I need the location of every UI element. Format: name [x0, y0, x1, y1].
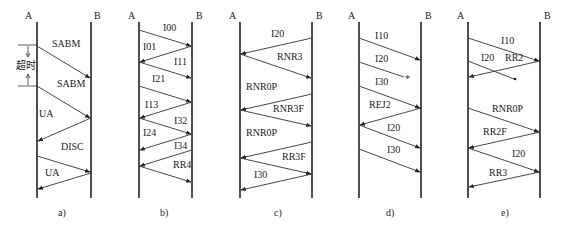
message-label: RR3 [489, 167, 507, 178]
panel-caption: b) [160, 207, 168, 219]
message-label: RNR0P [492, 103, 524, 114]
lost-frame-marker [514, 78, 517, 81]
station-b-label: B [544, 10, 551, 21]
message-label: UA [45, 167, 60, 178]
message-label: I10 [375, 30, 388, 41]
message-label: SABM [52, 38, 80, 49]
timeout-bracket: 超时 [16, 45, 37, 86]
message-label: I00 [163, 22, 176, 33]
station-a-label: A [128, 10, 136, 21]
station-b-label: B [94, 10, 101, 21]
message-label: RR2 [505, 52, 523, 63]
message-arrow [241, 174, 312, 190]
hdlc-sequence-diagrams: A B 超时 SABM SABM UA DISC UA a) A B [0, 0, 563, 235]
lost-frame-marker: * [405, 73, 410, 84]
timeout-label: 超时 [16, 59, 36, 71]
station-a-label: A [348, 10, 356, 21]
panel-caption: a) [58, 207, 66, 219]
message-arrow [38, 118, 91, 141]
panel-caption: c) [274, 207, 282, 219]
message-label: I11 [174, 56, 187, 67]
station-a-label: A [229, 10, 237, 21]
message-label: I32 [174, 115, 187, 126]
message-label: I20 [512, 148, 525, 159]
message-label: I20 [481, 52, 494, 63]
message-label: SABM [57, 78, 85, 89]
panel-caption: e) [501, 207, 509, 219]
message-label: I24 [143, 127, 156, 138]
panel-b: A B I00 I01 I11 I21 I13 I32 I24 I34 RR4 … [128, 10, 203, 219]
station-a-label: A [457, 10, 465, 21]
panel-c: A B I20 RNR3 RNR0P RNR3F RNR0P RR3F I30 … [229, 10, 323, 219]
message-label: I20 [387, 122, 400, 133]
message-arrow [359, 38, 420, 60]
message-label: I20 [375, 53, 388, 64]
message-label: I01 [143, 41, 156, 52]
message-arrow [469, 61, 540, 77]
panel-d: A B I10 I20 * I30 REJ2 I20 I30 d) [348, 10, 432, 219]
message-label: I30 [387, 144, 400, 155]
message-label: DISC [61, 141, 84, 152]
message-arrow [37, 46, 90, 78]
message-label: RNR3F [273, 103, 305, 114]
message-label: I30 [254, 169, 267, 180]
lost-message-line [359, 62, 404, 77]
message-label: UA [39, 108, 54, 119]
message-label: I20 [271, 28, 284, 39]
message-label: I13 [145, 99, 158, 110]
message-label: I10 [501, 35, 514, 46]
message-label: I21 [152, 73, 165, 84]
panel-a: A B 超时 SABM SABM UA DISC UA a) [16, 10, 101, 219]
lost-message-line [468, 61, 514, 79]
station-b-label: B [425, 10, 432, 21]
message-label: RNR0P [246, 81, 278, 92]
message-label: I30 [375, 76, 388, 87]
message-label: RNR3 [277, 51, 303, 62]
station-b-label: B [196, 10, 203, 21]
message-label: I34 [174, 140, 187, 151]
message-label: RR2F [483, 126, 507, 137]
station-a-label: A [25, 10, 33, 21]
message-label: RR4 [173, 159, 191, 170]
message-label: RR3F [282, 151, 306, 162]
station-b-label: B [316, 10, 323, 21]
panel-caption: d) [386, 207, 394, 219]
panel-e: A B I10 I20 RR2 RNR0P RR2F I20 RR3 e) [457, 10, 551, 219]
message-label: RNR0P [246, 127, 278, 138]
message-label: REJ2 [369, 99, 391, 110]
